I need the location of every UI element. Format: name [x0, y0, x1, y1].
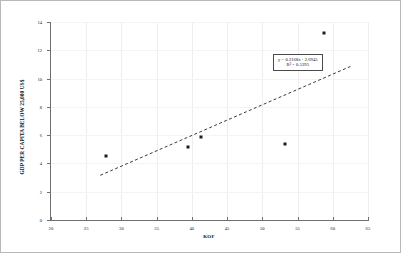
data-point — [200, 136, 203, 139]
chart-frame: GDP PER CAPITA BELOW 25,000 US$ KOF 2025… — [0, 0, 401, 253]
y-tick-label: 8 — [40, 104, 42, 109]
data-point — [323, 32, 326, 35]
x-tick-label: 50 — [260, 226, 265, 231]
y-tick-label: 10 — [37, 76, 42, 81]
y-tick-label: 12 — [37, 48, 42, 53]
data-point — [283, 142, 286, 145]
x-tick-label: 65 — [366, 226, 371, 231]
data-point — [187, 146, 190, 149]
plot-area: 20253035404550556065 02468101214 y = 0.2… — [50, 22, 368, 221]
y-tick-label: 2 — [40, 189, 42, 194]
x-tick-label: 45 — [225, 226, 230, 231]
gridline — [368, 22, 369, 220]
x-tick-label: 25 — [84, 226, 89, 231]
x-tick-label: 30 — [119, 226, 124, 231]
x-axis-title: KOF — [203, 234, 214, 239]
trendline — [51, 22, 368, 220]
y-tick-label: 14 — [37, 20, 42, 25]
equation-annotation: y = 0.2168x - 2.6945 R² = 0.5395 — [273, 54, 323, 71]
y-tick-label: 4 — [40, 161, 42, 166]
x-tick-label: 60 — [330, 226, 335, 231]
axis-tick — [368, 217, 369, 221]
data-point — [104, 155, 107, 158]
x-tick-label: 35 — [154, 226, 159, 231]
x-tick-label: 40 — [189, 226, 194, 231]
x-tick-label: 20 — [49, 226, 54, 231]
y-tick-label: 6 — [40, 133, 42, 138]
y-tick-label: 0 — [40, 218, 42, 223]
axis-tick — [47, 220, 51, 221]
y-axis-title: GDP PER CAPITA BELOW 25,000 US$ — [19, 80, 25, 175]
r-squared-line: R² = 0.5395 — [278, 62, 318, 68]
x-tick-label: 55 — [295, 226, 300, 231]
